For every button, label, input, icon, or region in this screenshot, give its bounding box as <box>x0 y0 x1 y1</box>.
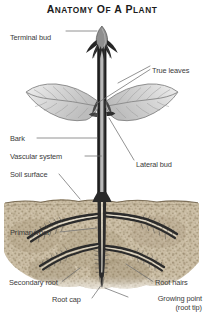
vascular-core <box>101 48 103 200</box>
label-primary-root: Primary root <box>10 228 49 237</box>
leaf-left <box>26 84 98 121</box>
leader-true-leaves-a <box>118 66 150 83</box>
label-lateral-bud: Lateral bud <box>136 160 172 169</box>
bark-edge-right <box>104 46 106 202</box>
leader-soil-surface <box>59 174 80 199</box>
label-secondary-root: Secondary root <box>9 278 58 287</box>
leader-lateral-bud <box>109 118 134 160</box>
stem <box>92 46 111 202</box>
label-bark: Bark <box>10 134 25 143</box>
leader-growing-point <box>105 288 128 297</box>
label-growing-point: Growing point (root tip) <box>126 294 202 312</box>
label-terminal-bud: Terminal bud <box>10 33 51 42</box>
label-vascular-system: Vascular system <box>10 152 62 161</box>
label-true-leaves: True leaves <box>152 66 189 75</box>
plant-illustration <box>0 0 204 324</box>
leaf-right <box>106 84 178 121</box>
label-soil-surface: Soil surface <box>10 170 47 179</box>
label-growing-point-line2: (root tip) <box>126 303 202 312</box>
plant-anatomy-figure: ANATOMY OF A PLANT <box>0 0 204 324</box>
label-root-hairs: Root hairs <box>155 278 188 287</box>
label-root-cap: Root cap <box>52 295 81 304</box>
label-growing-point-line1: Growing point <box>158 294 202 303</box>
bark-edge-left <box>97 46 99 202</box>
primary-root <box>99 200 104 276</box>
